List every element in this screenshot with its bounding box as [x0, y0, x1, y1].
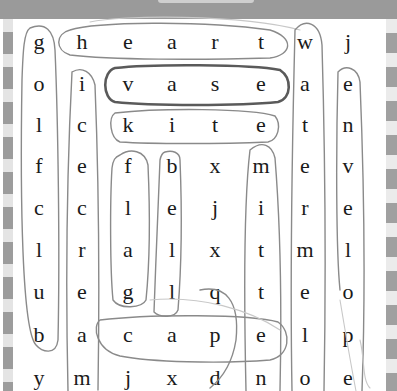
grid-cell[interactable]: p	[333, 320, 363, 350]
grid-cell[interactable]: t	[200, 110, 230, 140]
grid-cell[interactable]: e	[290, 277, 320, 307]
grid-cell[interactable]: n	[333, 110, 363, 140]
grid-cell[interactable]: g	[24, 27, 54, 57]
grid-cell[interactable]: l	[24, 110, 54, 140]
grid-cell[interactable]: a	[157, 69, 187, 99]
grid-cell[interactable]: s	[200, 69, 230, 99]
grid-cell[interactable]: t	[246, 27, 276, 57]
grid-cell[interactable]: l	[24, 235, 54, 265]
grid-cell[interactable]: j	[113, 363, 143, 391]
grid-cell[interactable]: e	[157, 193, 187, 223]
grid-cell[interactable]: e	[333, 69, 363, 99]
grid-cell[interactable]: e	[246, 320, 276, 350]
grid-cell[interactable]: i	[67, 69, 97, 99]
grid-cell[interactable]: q	[200, 277, 230, 307]
grid-cell[interactable]: d	[200, 363, 230, 391]
grid-cell[interactable]: l	[157, 277, 187, 307]
grid-cell[interactable]: c	[24, 193, 54, 223]
grid-cell[interactable]: c	[113, 320, 143, 350]
grid-cell[interactable]: e	[246, 110, 276, 140]
grid-cell[interactable]: t	[290, 110, 320, 140]
grid-cell[interactable]: r	[290, 193, 320, 223]
grid-cell[interactable]: a	[157, 27, 187, 57]
grid-cell[interactable]: g	[113, 277, 143, 307]
grid-cell[interactable]: x	[157, 363, 187, 391]
grid-cell[interactable]: f	[113, 151, 143, 181]
grid-cell[interactable]: e	[333, 363, 363, 391]
grid-cell[interactable]: l	[157, 235, 187, 265]
grid-cell[interactable]: x	[200, 235, 230, 265]
grid-cell[interactable]: l	[290, 320, 320, 350]
grid-cell[interactable]: c	[67, 110, 97, 140]
grid-cell[interactable]: a	[290, 69, 320, 99]
grid-cell[interactable]: m	[246, 151, 276, 181]
grid-cell[interactable]: h	[67, 27, 97, 57]
grid-cell[interactable]: a	[157, 320, 187, 350]
grid-cell[interactable]: r	[67, 235, 97, 265]
grid-cell[interactable]: u	[24, 277, 54, 307]
grid-cell[interactable]: e	[290, 151, 320, 181]
grid-cell[interactable]: o	[333, 277, 363, 307]
grid-cell[interactable]: x	[200, 151, 230, 181]
grid-cell[interactable]: m	[67, 363, 97, 391]
grid-cell[interactable]: n	[246, 363, 276, 391]
grid-cell[interactable]: l	[333, 235, 363, 265]
grid-cell[interactable]: c	[67, 193, 97, 223]
grid-cell[interactable]: e	[113, 27, 143, 57]
grid-cell[interactable]: o	[24, 69, 54, 99]
grid-cell[interactable]: p	[200, 320, 230, 350]
grid-cell[interactable]: e	[67, 277, 97, 307]
grid-cell[interactable]: y	[24, 363, 54, 391]
letter-grid: gheartwjoivaseaelckitetnfefbxmevcclejire…	[0, 0, 397, 391]
grid-cell[interactable]: e	[67, 151, 97, 181]
grid-cell[interactable]: w	[290, 27, 320, 57]
grid-cell[interactable]: o	[290, 363, 320, 391]
grid-cell[interactable]: b	[24, 320, 54, 350]
grid-cell[interactable]: k	[113, 110, 143, 140]
grid-cell[interactable]: m	[290, 235, 320, 265]
grid-cell[interactable]: a	[67, 320, 97, 350]
grid-cell[interactable]: i	[246, 193, 276, 223]
grid-cell[interactable]: j	[333, 27, 363, 57]
grid-cell[interactable]: b	[157, 151, 187, 181]
grid-cell[interactable]: e	[246, 69, 276, 99]
grid-cell[interactable]: a	[113, 235, 143, 265]
grid-cell[interactable]: t	[246, 235, 276, 265]
grid-cell[interactable]: j	[200, 193, 230, 223]
grid-cell[interactable]: r	[200, 27, 230, 57]
grid-cell[interactable]: v	[333, 151, 363, 181]
grid-cell[interactable]: v	[113, 69, 143, 99]
grid-cell[interactable]: t	[246, 277, 276, 307]
grid-cell[interactable]: l	[113, 193, 143, 223]
grid-cell[interactable]: f	[24, 151, 54, 181]
grid-cell[interactable]: e	[333, 193, 363, 223]
grid-cell[interactable]: i	[157, 110, 187, 140]
